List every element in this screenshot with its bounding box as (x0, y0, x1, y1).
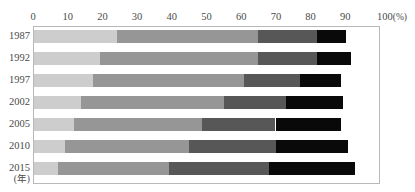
bar-segment (346, 30, 379, 43)
x-axis-unit-label: (%) (393, 12, 407, 22)
x-axis: 0102030405060708090100(%) (0, 10, 415, 24)
bar-segment (58, 162, 168, 175)
bar-segment (34, 118, 74, 131)
stacked-bar-chart: 0102030405060708090100(%) (年) 1987199219… (0, 0, 415, 192)
y-axis-unit-label: (年) (14, 174, 30, 185)
x-tick-label: 50 (201, 10, 212, 23)
x-tick-label: 100(%) (377, 10, 407, 24)
x-tick-value: 100 (377, 11, 393, 22)
x-tick-label: 30 (132, 10, 143, 23)
bar-row (34, 162, 379, 175)
bar-row (34, 74, 379, 87)
bar-segment (341, 118, 379, 131)
y-tick-label: 2005 (9, 118, 30, 130)
bar-segment (355, 162, 379, 175)
bar-segment (317, 30, 346, 43)
bar-segment (65, 140, 189, 153)
x-tick-label: 10 (62, 10, 73, 23)
bar-segment (100, 52, 259, 65)
bar-segment (34, 30, 117, 43)
bars-layer (34, 27, 379, 183)
bar-segment (74, 118, 202, 131)
bar-segment (81, 96, 224, 109)
bar-segment (34, 74, 93, 87)
bar-segment (189, 140, 275, 153)
x-tick-label: 0 (30, 10, 35, 23)
x-tick-label: 80 (305, 10, 316, 23)
x-tick-label: 40 (167, 10, 178, 23)
y-tick-label: 1997 (9, 74, 30, 86)
y-tick-label: 2002 (9, 96, 30, 108)
x-tick-label: 60 (236, 10, 247, 23)
bar-segment (244, 74, 299, 87)
chart-title (0, 0, 415, 1)
bar-segment (258, 52, 317, 65)
bar-row (34, 96, 379, 109)
bar-row (34, 52, 379, 65)
bar-segment (348, 140, 379, 153)
x-tick-label: 20 (97, 10, 108, 23)
bar-segment (276, 140, 348, 153)
y-tick-label: 1992 (9, 52, 30, 64)
bar-segment (286, 96, 343, 109)
bar-segment (34, 52, 100, 65)
bar-segment (300, 74, 341, 87)
bar-segment (269, 162, 355, 175)
bar-segment (202, 118, 275, 131)
y-tick-label: 2015 (9, 162, 30, 174)
y-axis: (年) 1987199219972002200520102015 (0, 26, 33, 192)
bar-segment (351, 52, 379, 65)
bar-segment (117, 30, 258, 43)
bar-segment (317, 52, 352, 65)
bar-segment (34, 162, 58, 175)
y-tick-label: 1987 (9, 30, 30, 42)
bar-segment (34, 140, 65, 153)
bar-segment (169, 162, 269, 175)
bar-row (34, 118, 379, 131)
bar-segment (258, 30, 317, 43)
bar-row (34, 30, 379, 43)
bar-segment (276, 118, 342, 131)
x-tick-label: 70 (271, 10, 282, 23)
bar-row (34, 140, 379, 153)
bar-segment (224, 96, 286, 109)
bar-segment (34, 96, 81, 109)
bar-segment (93, 74, 245, 87)
bar-segment (343, 96, 379, 109)
y-tick-label: 2010 (9, 140, 30, 152)
bar-segment (341, 74, 379, 87)
x-tick-label: 90 (340, 10, 351, 23)
